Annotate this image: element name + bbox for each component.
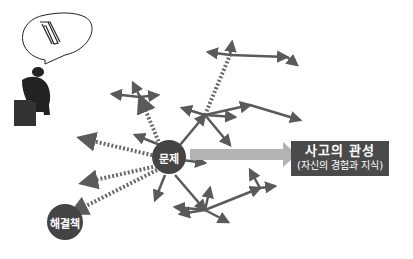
thinker-statue-icon	[14, 67, 50, 126]
problem-label: 문제	[152, 150, 186, 166]
inertia-arrow	[190, 142, 297, 167]
dotted-arrows	[72, 55, 230, 213]
inertia-subtitle: (자신의 경험과 지식)	[291, 159, 389, 173]
thought-bubble	[23, 13, 93, 64]
inertia-title: 사고의 관성	[291, 141, 389, 159]
solid-arrows	[112, 42, 300, 222]
inertia-box: 사고의 관성 (자신의 경험과 지식)	[291, 141, 389, 176]
solution-label: 해결책	[45, 215, 85, 231]
